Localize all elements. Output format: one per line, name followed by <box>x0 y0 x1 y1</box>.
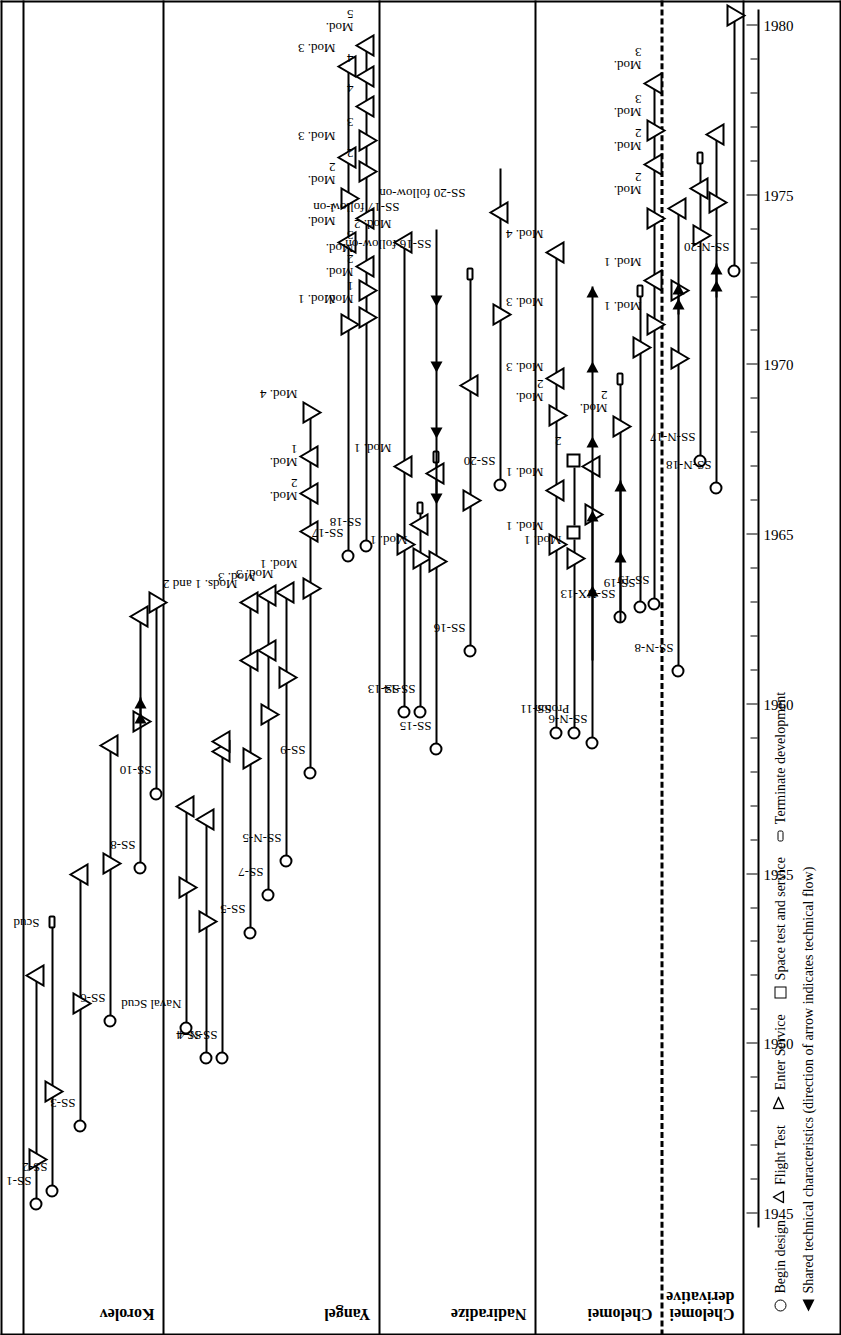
axis-tick <box>750 771 757 772</box>
begin-design-marker <box>671 664 684 677</box>
enter-service-marker <box>175 876 197 898</box>
mod-label: 2 <box>555 434 562 447</box>
mod-label: Mod. 3 <box>297 129 335 142</box>
legend-row-1: Begin design Flight Test Enter Service S… <box>772 675 788 1311</box>
technical-flow-arrow <box>586 286 598 297</box>
legend-terminate-label: Terminate development <box>772 691 788 823</box>
begin-design-marker <box>493 478 506 491</box>
begin-design-marker <box>149 787 162 800</box>
enter-service-marker <box>299 577 321 599</box>
program-label: SS-16 follow-on <box>345 237 431 250</box>
begin-design-marker <box>633 600 646 613</box>
enter-service-marker <box>643 119 665 141</box>
mod-label: Mod.1 <box>269 441 297 468</box>
program-label: SS-8 <box>110 838 135 851</box>
triangle-up-icon <box>772 1191 788 1204</box>
enter-service-marker <box>629 336 651 358</box>
begin-design-marker <box>243 926 256 939</box>
technical-flow-arrow <box>710 263 722 274</box>
technical-flow-arrow <box>672 283 684 294</box>
legend-terminate: Terminate development <box>772 691 788 840</box>
year-axis <box>757 9 759 1227</box>
mod-label: Mod. 1 <box>259 556 297 569</box>
enter-service-marker <box>355 129 377 151</box>
terminate-marker <box>696 151 703 164</box>
mod-label: 2 <box>347 146 354 159</box>
begin-design-marker <box>341 549 354 562</box>
begin-design-marker <box>45 1184 58 1197</box>
flight-test-marker <box>393 455 415 477</box>
technical-flow-arrow <box>134 712 146 723</box>
enter-service-marker <box>563 547 585 569</box>
axis-tick <box>750 1110 757 1111</box>
axis-tick <box>746 533 757 534</box>
axis-tick <box>750 499 757 500</box>
mod-label: Mod. 4 <box>505 227 543 240</box>
space-test-marker <box>566 453 580 467</box>
terminate-marker <box>636 284 643 297</box>
rotated-artwork: 19451950195519601965197019751980KorolevY… <box>0 0 841 1335</box>
axis-tick <box>750 1178 757 1179</box>
flight-test-marker <box>175 795 197 817</box>
axis-tick <box>750 940 757 941</box>
flight-test-marker <box>643 72 665 94</box>
technical-flow-arrow <box>430 493 442 504</box>
terminate-marker <box>416 501 423 514</box>
legend-shared-label: Shared technical characteristics (direct… <box>800 866 816 1293</box>
flight-test-marker <box>299 445 321 467</box>
section-rule-korolev <box>22 0 24 1335</box>
enter-service-marker <box>239 747 261 769</box>
technical-flow-arrow <box>614 551 626 562</box>
begin-design-marker <box>727 264 740 277</box>
axis-tick <box>750 737 757 738</box>
mod-label: Mod.3 <box>613 92 641 119</box>
axis-tick <box>746 363 757 364</box>
begin-design-marker <box>279 855 292 868</box>
program-label: SS-19 <box>617 573 649 586</box>
mod-label: Mod. 3 <box>297 40 335 53</box>
flight-test-marker <box>643 153 665 175</box>
mod-label: Mod. 1 <box>523 533 561 546</box>
flight-test-marker <box>545 479 567 501</box>
program-label: SS-N-18 <box>665 458 711 471</box>
program-label: SS-3 <box>50 1096 75 1109</box>
enter-service-marker <box>545 404 567 426</box>
axis-tick <box>750 160 757 161</box>
technical-flow-arrow <box>586 361 598 372</box>
flight-test-marker <box>409 513 431 535</box>
axis-tick-label: 1970 <box>763 357 793 372</box>
enter-service-marker <box>643 313 665 335</box>
program-label: SS-10 <box>119 763 151 776</box>
axis-tick <box>750 330 757 331</box>
chart-frame-top <box>0 0 2 1335</box>
enter-service-marker <box>99 852 121 874</box>
program-bar <box>205 819 207 1057</box>
program-label: SS-15 <box>399 719 431 732</box>
program-label: SS-18 <box>329 515 361 528</box>
axis-tick <box>746 1042 757 1043</box>
flight-test-marker <box>25 964 47 986</box>
technical-flow-arrow <box>586 510 598 521</box>
flight-test-marker <box>299 482 321 504</box>
enter-service-marker <box>459 489 481 511</box>
axis-tick <box>750 262 757 263</box>
begin-design-marker <box>413 705 426 718</box>
enter-service-marker <box>667 347 689 369</box>
axis-tick <box>750 567 757 568</box>
flight-test-marker <box>69 863 91 885</box>
begin-design-marker <box>103 1014 116 1027</box>
legend-enter-service-label: Enter Service <box>772 1014 788 1090</box>
enter-service-marker <box>355 306 377 328</box>
mod-label: Mod.1 <box>325 278 353 305</box>
enter-service-marker <box>145 591 167 613</box>
axis-tick <box>746 1212 757 1213</box>
legend-space-test-label: Space test and service <box>772 857 788 980</box>
section-rule-chelomei <box>534 0 536 1335</box>
legend-space-test: Space test and service <box>772 857 788 998</box>
enter-service-marker <box>299 401 321 423</box>
program-label: SS-17 follow-on <box>313 200 399 213</box>
mod-label: Mod.2 <box>269 475 297 502</box>
program-label: SS-5 <box>220 902 245 915</box>
program-bar <box>699 157 701 459</box>
begin-design-marker <box>647 597 660 610</box>
